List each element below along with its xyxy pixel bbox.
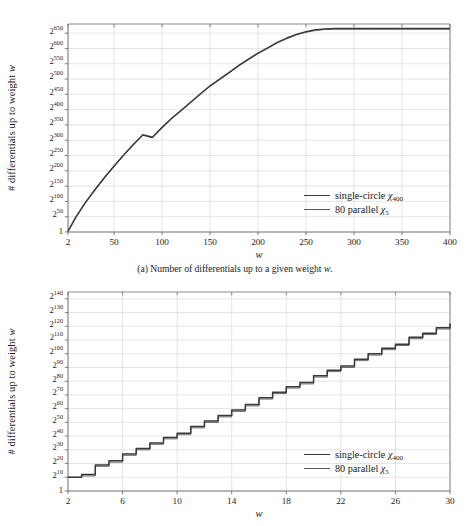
y-tick-label: 2600 [49, 42, 63, 51]
chart-panel-a: # differentials up to weight w w single-… [0, 0, 470, 262]
x-tick-label: 2 [48, 238, 88, 247]
legend-line-swatch [304, 454, 330, 455]
panel-a-caption: (a) Number of differentials up to a give… [0, 263, 470, 274]
y-tick-label: 2400 [49, 103, 63, 112]
y-tick-label: 210 [53, 471, 63, 480]
y-tick-label: 2650 [49, 27, 63, 36]
y-tick-label: 1 [59, 227, 63, 236]
y-tick-label: 2110 [50, 333, 63, 342]
figure-container: # differentials up to weight w w single-… [0, 0, 470, 526]
panel-a-y-axis-label: # differentials up to weight w [6, 24, 17, 232]
legend-line-swatch [304, 468, 330, 469]
x-tick-label: 100 [142, 238, 182, 247]
legend-item: 80 parallel χ5 [304, 202, 403, 216]
x-tick-label: 2 [48, 497, 88, 506]
y-tick-label: 2120 [49, 320, 63, 329]
y-tick-label: 230 [53, 443, 63, 452]
x-tick-label: 150 [190, 238, 230, 247]
y-tick-label: 2130 [49, 306, 63, 315]
x-tick-label: 26 [375, 497, 415, 506]
x-tick-label: 14 [212, 497, 252, 506]
panel-a-plot [0, 0, 470, 262]
y-tick-label: 2100 [49, 347, 63, 356]
legend-item: single-circle χ400 [304, 188, 403, 202]
x-tick-label: 250 [286, 238, 326, 247]
x-tick-label: 400 [430, 238, 470, 247]
y-tick-label: 260 [53, 402, 63, 411]
y-tick-label: 1 [59, 486, 63, 495]
x-tick-label: 30 [430, 497, 470, 506]
y-tick-label: 2250 [49, 149, 63, 158]
x-tick-label: 50 [94, 238, 134, 247]
legend-label: 80 parallel χ5 [335, 204, 389, 215]
y-tick-label: 2100 [49, 195, 63, 204]
panel-b-y-axis-label: # differentials up to weight w [6, 292, 17, 491]
panel-b-legend: single-circle χ40080 parallel χ5 [304, 447, 403, 475]
panel-b-plot [0, 284, 470, 526]
y-tick-label: 220 [53, 457, 63, 466]
x-tick-label: 350 [382, 238, 422, 247]
y-tick-label: 2500 [49, 72, 63, 81]
x-tick-label: 18 [266, 497, 306, 506]
panel-a-legend: single-circle χ40080 parallel χ5 [304, 188, 403, 216]
y-tick-label: 280 [53, 375, 63, 384]
x-tick-label: 300 [334, 238, 374, 247]
legend-item: 80 parallel χ5 [304, 461, 403, 475]
x-tick-label: 200 [238, 238, 278, 247]
y-tick-label: 2200 [49, 164, 63, 173]
chart-panel-b: # differentials up to weight w w single-… [0, 284, 470, 526]
y-tick-label: 2450 [49, 88, 63, 97]
x-tick-label: 10 [157, 497, 197, 506]
y-tick-label: 240 [53, 430, 63, 439]
x-tick-label: 6 [103, 497, 143, 506]
y-tick-label: 250 [53, 210, 63, 219]
y-tick-label: 2550 [49, 57, 63, 66]
y-tick-label: 2140 [49, 292, 63, 301]
x-tick-label: 22 [321, 497, 361, 506]
legend-item: single-circle χ400 [304, 447, 403, 461]
legend-label: single-circle χ400 [335, 190, 403, 201]
panel-a-x-axis-label: w [239, 249, 279, 260]
y-tick-label: 2150 [49, 180, 63, 189]
legend-line-swatch [304, 195, 330, 196]
y-tick-label: 250 [53, 416, 63, 425]
legend-label: single-circle χ400 [335, 449, 403, 460]
y-tick-label: 270 [53, 388, 63, 397]
y-tick-label: 290 [53, 361, 63, 370]
y-tick-label: 2300 [49, 134, 63, 143]
panel-b-x-axis-label: w [239, 508, 279, 519]
y-tick-label: 2350 [49, 118, 63, 127]
legend-line-swatch [304, 209, 330, 210]
legend-label: 80 parallel χ5 [335, 463, 389, 474]
